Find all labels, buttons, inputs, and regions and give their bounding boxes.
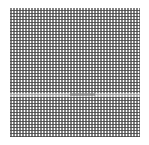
grid-pattern [10,8,140,137]
dark-band-segment [70,93,95,96]
